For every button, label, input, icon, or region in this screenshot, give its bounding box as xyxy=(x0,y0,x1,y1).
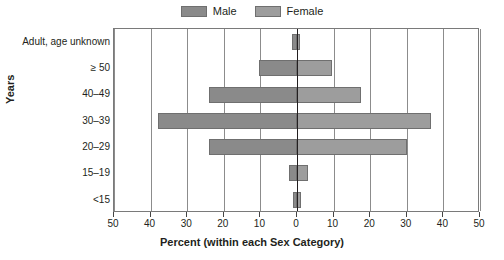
bar-female-30-39 xyxy=(297,113,431,129)
bar-male-30-39 xyxy=(158,113,297,129)
y-category-label-20-29: 20–29 xyxy=(2,141,110,152)
x-tick-label-2: 30 xyxy=(171,218,201,229)
x-tick-4 xyxy=(259,212,260,217)
x-tick-label-9: 40 xyxy=(427,218,457,229)
x-tick-7 xyxy=(369,212,370,217)
legend-swatch-female xyxy=(255,6,281,17)
chart-legend: Male Female xyxy=(0,6,504,17)
gridline-50 xyxy=(480,29,481,211)
x-tick-6 xyxy=(333,212,334,217)
y-category-label-under-15: <15 xyxy=(2,194,110,205)
legend-label-female: Female xyxy=(287,6,324,17)
x-tick-9 xyxy=(442,212,443,217)
y-category-label-50-plus: ≥ 50 xyxy=(2,62,110,73)
y-category-label-30-39: 30–39 xyxy=(2,115,110,126)
bar-row-30-39 xyxy=(114,108,478,134)
y-axis-labels: Adult, age unknown ≥ 50 40–49 30–39 20–2… xyxy=(0,28,110,212)
bar-row-15-19 xyxy=(114,160,478,186)
y-category-label-15-19: 15–19 xyxy=(2,167,110,178)
x-tick-label-8: 30 xyxy=(391,218,421,229)
legend-swatch-male xyxy=(181,6,207,17)
legend-entry-male: Male xyxy=(181,6,237,17)
legend-entry-female: Female xyxy=(255,6,324,17)
x-tick-label-10: 50 xyxy=(464,218,494,229)
bar-row-15 xyxy=(114,187,478,213)
x-tick-0 xyxy=(113,212,114,217)
x-axis-tick-labels: 504030201001020304050 xyxy=(0,218,504,232)
bar-male-15-19 xyxy=(289,165,297,181)
y-category-label-adult-age-unknown: Adult, age unknown xyxy=(2,36,110,47)
bar-female-40-49 xyxy=(297,87,361,103)
bar-female-50 xyxy=(297,60,332,76)
x-tick-label-3: 20 xyxy=(208,218,238,229)
bar-row-20-29 xyxy=(114,134,478,160)
x-tick-label-4: 10 xyxy=(244,218,274,229)
bar-male-50 xyxy=(259,60,297,76)
bar-row-adult-age-unknown xyxy=(114,29,478,55)
x-tick-1 xyxy=(150,212,151,217)
y-category-label-40-49: 40–49 xyxy=(2,88,110,99)
x-tick-label-7: 20 xyxy=(354,218,384,229)
x-tick-8 xyxy=(406,212,407,217)
bar-female-15-19 xyxy=(297,165,308,181)
x-tick-2 xyxy=(186,212,187,217)
bar-row-40-49 xyxy=(114,82,478,108)
x-tick-label-6: 10 xyxy=(318,218,348,229)
x-tick-label-0: 50 xyxy=(98,218,128,229)
bar-male-20-29 xyxy=(209,139,297,155)
bar-female-20-29 xyxy=(297,139,407,155)
x-tick-3 xyxy=(223,212,224,217)
bar-male-40-49 xyxy=(209,87,297,103)
legend-label-male: Male xyxy=(213,6,237,17)
zero-axis-line xyxy=(297,29,298,211)
bar-row-50 xyxy=(114,55,478,81)
x-tick-10 xyxy=(479,212,480,217)
plot-area xyxy=(113,28,479,212)
x-tick-label-5: 0 xyxy=(281,218,311,229)
x-tick-5 xyxy=(296,212,297,217)
population-pyramid-chart: Male Female Years Adult, age unknown ≥ 5… xyxy=(0,0,504,260)
x-tick-label-1: 40 xyxy=(135,218,165,229)
x-axis-title: Percent (within each Sex Category) xyxy=(0,236,504,248)
